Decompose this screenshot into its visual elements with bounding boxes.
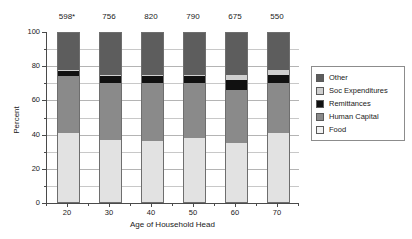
- y-axis-tick: [42, 169, 47, 170]
- legend-item[interactable]: Other: [316, 71, 401, 84]
- y-axis-tick: [42, 135, 47, 136]
- x-axis-tick-label: 60: [231, 209, 239, 217]
- x-axis-tick: [109, 203, 110, 207]
- bar-segment-remittances: [225, 80, 248, 90]
- bar-segment-soc-expenditures: [57, 70, 80, 72]
- bar-segment-food: [267, 133, 290, 203]
- y-axis-tick-label: 0: [36, 199, 40, 207]
- column-annotation: 598*: [59, 12, 75, 21]
- y-axis-tick-minor: [44, 152, 47, 153]
- x-axis-title: Age of Household Head: [46, 220, 299, 229]
- legend-swatch-icon: [316, 74, 324, 82]
- gridline-minor: [47, 83, 299, 84]
- y-axis-tick-minor: [44, 118, 47, 119]
- y-axis-tick-label: 60: [32, 97, 40, 105]
- column-annotation: 790: [186, 12, 199, 21]
- legend-item[interactable]: Remittances: [316, 97, 401, 110]
- gridline-major: [47, 66, 299, 67]
- bar-segment-human-capital: [225, 90, 248, 143]
- x-axis-tick-minor: [256, 203, 257, 206]
- bar-stack: [183, 32, 206, 203]
- legend-item-label: Other: [329, 74, 348, 82]
- bar-segment-human-capital: [267, 83, 290, 133]
- gridline-minor: [47, 118, 299, 119]
- bar-segment-human-capital: [183, 83, 206, 138]
- x-axis-tick: [67, 203, 68, 207]
- y-axis-tick-minor: [44, 49, 47, 50]
- bar-stack: [225, 32, 248, 203]
- bar-segment-food: [57, 133, 80, 203]
- bar-segment-other: [99, 32, 122, 75]
- bar-segment-human-capital: [141, 83, 164, 141]
- x-axis-tick: [151, 203, 152, 207]
- bar-segment-other: [183, 32, 206, 75]
- x-axis-tick-minor: [46, 203, 47, 206]
- column-annotation: 756: [102, 12, 115, 21]
- gridline-major: [47, 100, 299, 101]
- legend-item-label: Food: [329, 126, 346, 134]
- bar-stack: [99, 32, 122, 203]
- bar-segment-other: [57, 32, 80, 70]
- gridline-minor: [47, 186, 299, 187]
- bar-stack: [267, 32, 290, 203]
- x-axis-tick-minor: [298, 203, 299, 206]
- y-axis-tick: [42, 100, 47, 101]
- bar-segment-soc-expenditures: [99, 75, 122, 77]
- x-axis-tick-label: 40: [147, 209, 155, 217]
- y-axis-tick-label: 100: [27, 28, 40, 36]
- y-axis-tick: [42, 66, 47, 67]
- x-axis-tick-label: 30: [105, 209, 113, 217]
- bar-segment-human-capital: [57, 76, 80, 132]
- y-axis-title: Percent: [12, 106, 21, 134]
- bar-segment-food: [141, 141, 164, 203]
- legend-swatch-icon: [316, 113, 324, 121]
- x-axis-tick-minor: [172, 203, 173, 206]
- x-axis-tick: [193, 203, 194, 207]
- y-axis-tick-label: 40: [32, 131, 40, 139]
- chart-legend: OtherSoc ExpendituresRemittancesHuman Ca…: [311, 66, 405, 141]
- x-axis-tick-minor: [130, 203, 131, 206]
- bar-segment-remittances: [99, 76, 122, 83]
- bar-segment-other: [267, 32, 290, 70]
- bar-segment-remittances: [57, 71, 80, 76]
- gridline-major: [47, 135, 299, 136]
- bar-segment-other: [141, 32, 164, 75]
- y-axis-tick-label: 80: [32, 62, 40, 69]
- x-axis-tick-minor: [88, 203, 89, 206]
- legend-swatch-icon: [316, 100, 324, 108]
- bar-segment-remittances: [141, 76, 164, 83]
- legend-item[interactable]: Soc Expenditures: [316, 84, 401, 97]
- x-axis-tick-label: 20: [63, 209, 71, 217]
- x-axis-tick: [277, 203, 278, 207]
- x-axis-tick-label: 70: [273, 209, 281, 217]
- x-axis-tick-label: 50: [189, 209, 197, 217]
- chart-figure: 598*756820790675550 Percent 020406080100…: [0, 0, 412, 239]
- bar-segment-soc-expenditures: [141, 75, 164, 77]
- legend-item[interactable]: Human Capital: [316, 110, 401, 123]
- x-axis-tick-minor: [214, 203, 215, 206]
- y-axis-tick-minor: [44, 186, 47, 187]
- legend-item[interactable]: Food: [316, 123, 401, 136]
- x-axis-tick: [235, 203, 236, 207]
- column-annotation: 550: [270, 12, 283, 21]
- y-axis-tick: [42, 32, 47, 33]
- bar-segment-other: [225, 32, 248, 75]
- bar-segment-soc-expenditures: [183, 75, 206, 77]
- legend-swatch-icon: [316, 126, 324, 134]
- bar-stack: [57, 32, 80, 203]
- bar-segment-soc-expenditures: [267, 70, 290, 75]
- legend-item-label: Remittances: [329, 100, 371, 108]
- bar-segment-food: [183, 138, 206, 203]
- bar-segment-food: [225, 143, 248, 203]
- column-annotation: 675: [228, 12, 241, 21]
- column-annotation: 820: [144, 12, 157, 21]
- gridline-major: [47, 169, 299, 170]
- y-axis-tick-label: 20: [32, 165, 40, 173]
- gridline-minor: [47, 152, 299, 153]
- legend-item-label: Soc Expenditures: [329, 87, 388, 95]
- legend-swatch-icon: [316, 87, 324, 95]
- bar-stack: [141, 32, 164, 203]
- gridline-minor: [47, 49, 299, 50]
- y-axis-tick-minor: [44, 83, 47, 84]
- legend-item-label: Human Capital: [329, 113, 379, 121]
